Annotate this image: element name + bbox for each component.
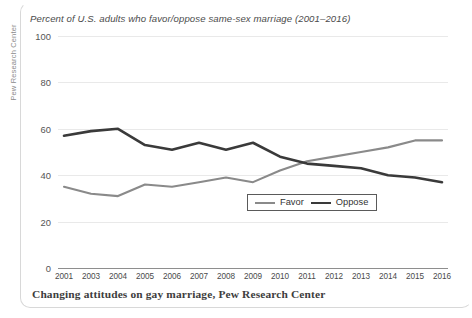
y-tick-label-0: 0 bbox=[46, 263, 51, 274]
legend-label-oppose: Oppose bbox=[336, 198, 369, 207]
x-tick-label-2009: 2009 bbox=[244, 272, 262, 281]
x-tick-label-2004: 2004 bbox=[109, 272, 127, 281]
x-tick-label-2014: 2014 bbox=[379, 272, 397, 281]
series-line-favor bbox=[64, 140, 442, 196]
y-tick-label-80: 80 bbox=[41, 77, 51, 88]
x-tick-label-2012: 2012 bbox=[325, 272, 343, 281]
plot-area: 020406080100 200120032004200520062007200… bbox=[58, 36, 448, 268]
x-tick-label-2007: 2007 bbox=[190, 272, 208, 281]
series-lines bbox=[58, 36, 448, 268]
legend-item-favor[interactable]: Favor bbox=[255, 198, 304, 207]
y-tick-label-40: 40 bbox=[41, 170, 51, 181]
chart-legend[interactable]: Favor Oppose bbox=[247, 194, 377, 211]
legend-label-favor: Favor bbox=[280, 198, 304, 207]
x-tick-label-2005: 2005 bbox=[136, 272, 154, 281]
legend-swatch-oppose-icon bbox=[311, 202, 331, 204]
y-tick-label-100: 100 bbox=[35, 31, 51, 42]
y-tick-label-60: 60 bbox=[41, 123, 51, 134]
x-tick-label-2010: 2010 bbox=[271, 272, 289, 281]
x-tick-label-2015: 2015 bbox=[406, 272, 424, 281]
chart-title: Percent of U.S. adults who favor/oppose … bbox=[30, 13, 350, 24]
legend-swatch-favor-icon bbox=[255, 202, 275, 204]
x-tick-label-2011: 2011 bbox=[298, 272, 316, 281]
x-tick-label-2013: 2013 bbox=[352, 272, 370, 281]
x-tick-label-2001: 2001 bbox=[55, 272, 73, 281]
series-line-oppose bbox=[64, 129, 442, 182]
x-tick-label-2006: 2006 bbox=[163, 272, 181, 281]
gridline-0 bbox=[58, 268, 448, 269]
x-tick-label-2003: 2003 bbox=[82, 272, 100, 281]
legend-item-oppose[interactable]: Oppose bbox=[311, 198, 369, 207]
figure-caption: Changing attitudes on gay marriage, Pew … bbox=[32, 288, 325, 300]
vertical-axis-title: Pew Research Center bbox=[9, 3, 18, 123]
x-tick-label-2008: 2008 bbox=[217, 272, 235, 281]
y-tick-label-20: 20 bbox=[41, 216, 51, 227]
x-tick-label-2016: 2016 bbox=[433, 272, 451, 281]
